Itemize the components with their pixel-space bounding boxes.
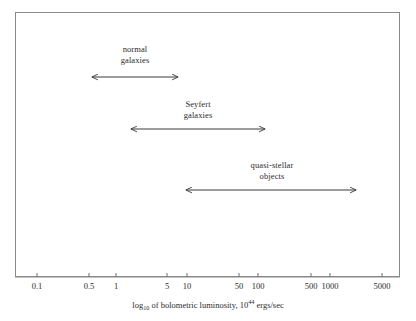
axis-tick-label: 500 (305, 281, 318, 291)
caption-superscript: 44 (248, 298, 254, 305)
axis-tick-label: 0.5 (84, 281, 95, 291)
axis-tick-label: 10 (183, 281, 192, 291)
range-label-line: galaxies (184, 110, 213, 121)
range-label: quasi-stellarobjects (251, 160, 294, 181)
axis-tick-label: 5 (165, 281, 169, 291)
axis-tick-label: 1000 (322, 281, 339, 291)
plot-frame (15, 12, 400, 277)
axis-tick-label: 50 (235, 281, 244, 291)
caption-middle: of bolometric luminosity, 10 (149, 300, 248, 310)
range-label-line: quasi-stellar (251, 160, 294, 171)
caption-suffix: ergs/sec (254, 300, 283, 310)
axis-tick-label: 0.1 (32, 281, 43, 291)
range-label-line: objects (251, 171, 294, 182)
range-label-line: galaxies (121, 55, 150, 66)
axis-tick-label: 100 (252, 281, 265, 291)
range-label: normalgalaxies (121, 44, 150, 65)
caption-subscript: 10 (143, 304, 149, 311)
range-label: Seyfertgalaxies (184, 99, 213, 120)
caption-prefix: log (132, 300, 143, 310)
axis-tick-label: 5000 (374, 281, 391, 291)
axis-tick-label: 1 (114, 281, 118, 291)
axis-caption: log10 of bolometric luminosity, 1044 erg… (0, 300, 416, 311)
luminosity-range-figure: normalgalaxiesSeyfertgalaxiesquasi-stell… (0, 0, 416, 321)
range-label-line: normal (121, 44, 150, 55)
range-label-line: Seyfert (184, 99, 213, 110)
